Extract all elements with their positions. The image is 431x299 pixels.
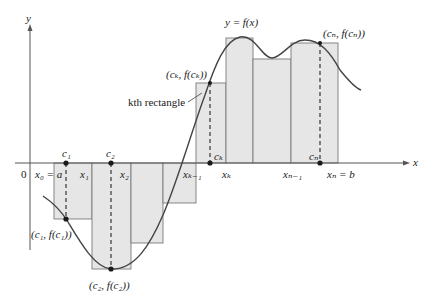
origin-label: 0 xyxy=(21,168,27,180)
partition-label-x1: x₁ xyxy=(79,168,89,180)
x-axis-label: x xyxy=(412,156,418,168)
point-label-c1: (c₁, f(c₁)) xyxy=(31,228,72,241)
c1-axis-point xyxy=(63,160,68,165)
ck-curve-point xyxy=(208,81,212,85)
point-label-ck: (cₖ, f(cₖ)) xyxy=(166,68,207,81)
y-axis-label: y xyxy=(25,12,31,24)
point-label-cn: (cₙ, f(cₙ)) xyxy=(323,27,365,40)
rectangle-n xyxy=(291,43,338,163)
sample-label-ck: cₖ xyxy=(214,150,223,162)
rectangle-3 xyxy=(131,163,163,243)
kth-rectangle-label: kth rectangle xyxy=(128,96,185,108)
rectangle-7 xyxy=(253,59,291,163)
partition-label-xk: xₖ xyxy=(221,168,231,180)
c1-curve-point xyxy=(63,216,68,221)
rectangle-6 xyxy=(226,38,253,163)
partition-label-x0: x₀ = a xyxy=(34,168,63,180)
curve-label: y = f(x) xyxy=(224,16,258,29)
sample-label-cn: cₙ xyxy=(309,150,318,162)
c2-curve-point xyxy=(108,266,113,271)
sample-label-c1: c₁ xyxy=(62,147,71,159)
partition-label-xk-1: xₖ₋₁ xyxy=(182,168,202,180)
cn-curve-point xyxy=(318,41,322,45)
riemann-sum-diagram: y x 0 y = f(x) x₀ = a x₁ x₂ xₖ₋₁ xₖ xₙ₋₁… xyxy=(0,0,431,299)
ck-axis-point xyxy=(207,160,212,165)
point-label-c2: (c₂, f(c₂)) xyxy=(89,279,130,292)
partition-label-xn: xₙ = b xyxy=(326,168,355,180)
partition-label-xn-1: xₙ₋₁ xyxy=(282,168,302,180)
sample-label-c2: c₂ xyxy=(106,147,115,159)
c2-axis-point xyxy=(108,160,113,165)
partition-label-x2: x₂ xyxy=(119,168,129,180)
y-axis-arrow-icon xyxy=(28,24,33,31)
x-axis-arrow-icon xyxy=(403,161,410,166)
